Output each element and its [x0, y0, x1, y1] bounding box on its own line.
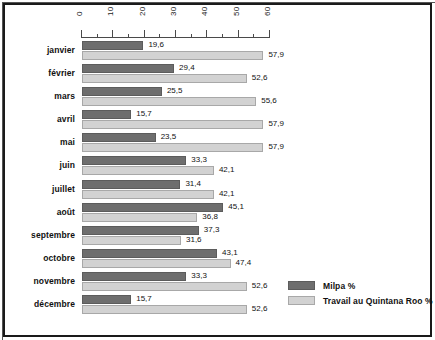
bar-row-label: janvier: [5, 45, 75, 55]
bar-group: 55,6: [82, 97, 432, 106]
bar-travail[interactable]: [82, 213, 197, 222]
bar-travail[interactable]: [82, 166, 214, 175]
bar-value-label: 57,9: [268, 50, 284, 59]
bar-milpa[interactable]: [82, 156, 186, 165]
bar-row: octobre43,147,4: [5, 249, 434, 272]
bar-value-label: 15,7: [136, 109, 152, 118]
bar-travail[interactable]: [82, 143, 263, 152]
bar-milpa[interactable]: [82, 180, 180, 189]
bar-milpa[interactable]: [82, 41, 143, 50]
bar-travail[interactable]: [82, 74, 247, 83]
bar-travail[interactable]: [82, 282, 247, 291]
bar-rows: janvier19,657,9février29,452,6mars25,555…: [5, 41, 434, 318]
axis-tick: [97, 34, 98, 38]
bar-value-label: 33,3: [191, 155, 207, 164]
axis-tick-label: 40: [200, 7, 209, 16]
legend-item-milpa: Milpa %: [288, 279, 430, 292]
bar-milpa[interactable]: [82, 110, 131, 119]
bar-value-label: 55,6: [261, 96, 277, 105]
bar-row-label: août: [5, 207, 75, 217]
bar-row: janvier19,657,9: [5, 41, 434, 64]
bar-group: 15,7: [82, 110, 432, 119]
bar-row-bars: 31,442,1: [82, 180, 432, 203]
bar-group: 36,8: [82, 213, 432, 222]
bar-milpa[interactable]: [82, 64, 174, 73]
axis-tick: [81, 30, 82, 38]
legend-item-travail: Travail au Quintana Roo %: [288, 294, 430, 307]
bar-value-label: 31,6: [186, 235, 202, 244]
bar-travail[interactable]: [82, 120, 263, 129]
bar-row-label: décembre: [5, 299, 75, 309]
bar-value-label: 25,5: [167, 86, 183, 95]
bar-group: 52,6: [82, 74, 432, 83]
bar-travail[interactable]: [82, 236, 181, 245]
bar-row: septembre37,331,6: [5, 226, 434, 249]
bar-row-label: mars: [5, 91, 75, 101]
bar-row: mars25,555,6: [5, 87, 434, 110]
chart-legend: Milpa % Travail au Quintana Roo %: [288, 279, 430, 309]
bar-group: 42,1: [82, 190, 432, 199]
bar-value-label: 31,4: [185, 179, 201, 188]
axis-tick-label: 50: [232, 7, 241, 16]
axis-tick-label: 20: [138, 7, 147, 16]
bar-row-label: février: [5, 68, 75, 78]
bar-milpa[interactable]: [82, 249, 217, 258]
axis-tick: [191, 34, 192, 38]
bar-value-label: 33,3: [191, 271, 207, 280]
bar-value-label: 42,1: [219, 189, 235, 198]
bar-value-label: 29,4: [179, 63, 195, 72]
bar-group: 57,9: [82, 143, 432, 152]
bar-row: juillet31,442,1: [5, 180, 434, 203]
bar-row-label: mai: [5, 137, 75, 147]
bar-travail[interactable]: [82, 97, 256, 106]
axis-tick-label: 0: [75, 11, 84, 16]
bar-milpa[interactable]: [82, 203, 223, 212]
bar-row-bars: 29,452,6: [82, 64, 432, 87]
bar-travail[interactable]: [82, 190, 214, 199]
bar-group: 31,6: [82, 236, 432, 245]
bar-group: 43,1: [82, 249, 432, 258]
axis-tick: [238, 30, 239, 38]
axis-tick: [222, 34, 223, 38]
bar-value-label: 52,6: [252, 281, 268, 290]
bar-row: mai23,557,9: [5, 133, 434, 156]
bar-row-label: octobre: [5, 253, 75, 263]
bar-travail[interactable]: [82, 51, 263, 60]
bar-row: juin33,342,1: [5, 156, 434, 179]
bar-value-label: 47,4: [236, 258, 252, 267]
bar-milpa[interactable]: [82, 133, 156, 142]
bar-value-label: 37,3: [204, 225, 220, 234]
bar-value-label: 42,1: [219, 165, 235, 174]
bar-row-bars: 15,757,9: [82, 110, 432, 133]
bar-chart-plot: 0102030405060 janvier19,657,9février29,4…: [5, 5, 434, 335]
bar-row-label: novembre: [5, 276, 75, 286]
bar-row-label: avril: [5, 114, 75, 124]
bar-milpa[interactable]: [82, 226, 199, 235]
bar-row: août45,136,8: [5, 203, 434, 226]
legend-swatch-travail: [288, 296, 315, 305]
bar-travail[interactable]: [82, 305, 247, 314]
bar-value-label: 23,5: [161, 132, 177, 141]
axis-tick: [253, 34, 254, 38]
bar-value-label: 52,6: [252, 73, 268, 82]
axis-tick: [175, 30, 176, 38]
bar-value-label: 43,1: [222, 248, 238, 257]
legend-label-travail: Travail au Quintana Roo %: [323, 296, 433, 306]
bar-travail[interactable]: [82, 259, 231, 268]
bar-group: 57,9: [82, 120, 432, 129]
axis-tick: [128, 34, 129, 38]
bar-value-label: 45,1: [228, 202, 244, 211]
bar-milpa[interactable]: [82, 87, 162, 96]
bar-value-label: 15,7: [136, 294, 152, 303]
chart-frame: 0102030405060 janvier19,657,9février29,4…: [3, 3, 432, 337]
axis-tick: [112, 30, 113, 38]
bar-value-label: 57,9: [268, 142, 284, 151]
bar-group: 31,4: [82, 180, 432, 189]
bar-value-label: 57,9: [268, 119, 284, 128]
x-axis: 0102030405060: [81, 30, 269, 38]
bar-milpa[interactable]: [82, 295, 131, 304]
bar-milpa[interactable]: [82, 272, 186, 281]
bar-row-bars: 37,331,6: [82, 226, 432, 249]
axis-tick-label: 60: [263, 7, 272, 16]
bar-row-label: juillet: [5, 184, 75, 194]
